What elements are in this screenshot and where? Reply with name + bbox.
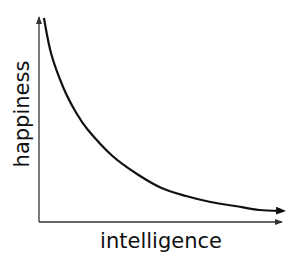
series-line — [44, 18, 284, 211]
chart: intelligence happiness — [0, 0, 301, 260]
y-axis-label: happiness — [10, 61, 34, 168]
x-axis-label: intelligence — [100, 229, 222, 253]
